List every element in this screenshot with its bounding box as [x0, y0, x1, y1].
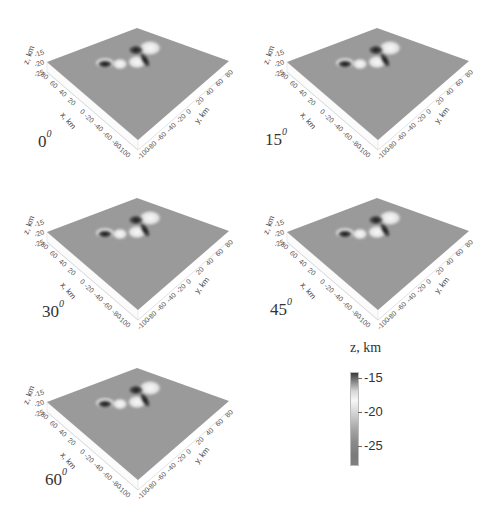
svg-text:-20: -20	[83, 112, 95, 124]
svg-text:-60: -60	[101, 470, 113, 482]
svg-text:40: 40	[204, 256, 215, 267]
svg-text:-60: -60	[395, 300, 407, 312]
svg-text:40: 40	[204, 86, 215, 97]
svg-text:-20: -20	[83, 452, 95, 464]
panel-0-deg: -15-20-25z, km806040200-20-40-60-80-100x…	[0, 0, 240, 170]
svg-text:y, km: y, km	[193, 275, 212, 295]
svg-text:y, km: y, km	[433, 105, 452, 125]
colorbar-gradient	[350, 372, 359, 466]
svg-text:-60: -60	[155, 130, 167, 142]
svg-text:-60: -60	[341, 130, 353, 142]
svg-text:60: 60	[454, 247, 465, 258]
svg-text:0: 0	[425, 107, 433, 115]
degree-superscript: 0	[62, 466, 67, 477]
svg-text:80: 80	[224, 238, 235, 249]
svg-text:0: 0	[185, 277, 193, 285]
panel-30-deg: -15-20-25z, km806040200-20-40-60-80-100x…	[0, 170, 240, 340]
svg-text:x, km: x, km	[298, 111, 317, 132]
svg-text:20: 20	[307, 266, 318, 276]
panel-60-deg: -15-20-25z, km806040200-20-40-60-80-100x…	[0, 340, 240, 510]
degree-superscript: 0	[282, 126, 287, 137]
angle-value: 30	[42, 302, 59, 321]
svg-text:40: 40	[444, 86, 455, 97]
svg-text:-20: -20	[33, 398, 45, 408]
svg-text:40: 40	[58, 258, 69, 268]
svg-text:-80: -80	[146, 309, 158, 321]
svg-text:0: 0	[185, 447, 193, 455]
svg-text:-100: -100	[357, 144, 372, 158]
colorbar-title: z, km	[350, 340, 381, 356]
svg-text:-20: -20	[33, 228, 45, 238]
angle-value: 15	[265, 130, 282, 149]
svg-text:-20: -20	[175, 282, 187, 294]
svg-text:-20: -20	[273, 58, 285, 68]
svg-text:20: 20	[194, 96, 205, 107]
svg-text:20: 20	[194, 436, 205, 447]
surface-plot: -15-20-25z, km806040200-20-40-60-80-100x…	[0, 170, 240, 340]
colorbar-tick: -20	[359, 404, 383, 419]
svg-text:40: 40	[298, 258, 309, 268]
svg-text:-40: -40	[405, 121, 417, 133]
svg-text:80: 80	[224, 408, 235, 419]
svg-text:-60: -60	[155, 300, 167, 312]
svg-text:-20: -20	[323, 282, 335, 294]
svg-text:-20: -20	[415, 282, 427, 294]
svg-text:-80: -80	[146, 479, 158, 491]
svg-text:-40: -40	[92, 121, 104, 133]
svg-text:-100: -100	[117, 144, 132, 158]
svg-text:40: 40	[58, 88, 69, 98]
svg-text:-80: -80	[386, 139, 398, 151]
svg-text:-40: -40	[165, 121, 177, 133]
svg-text:0: 0	[425, 277, 433, 285]
svg-text:-40: -40	[165, 291, 177, 303]
angle-label: 150	[265, 129, 287, 150]
svg-text:-60: -60	[395, 130, 407, 142]
svg-text:20: 20	[67, 96, 78, 106]
svg-text:-60: -60	[155, 470, 167, 482]
svg-text:y, km: y, km	[193, 105, 212, 125]
svg-text:-80: -80	[146, 139, 158, 151]
svg-text:x, km: x, km	[298, 281, 317, 302]
svg-text:-100: -100	[357, 314, 372, 328]
svg-text:80: 80	[464, 68, 475, 79]
svg-text:60: 60	[214, 247, 225, 258]
svg-text:y, km: y, km	[433, 275, 452, 295]
svg-text:x, km: x, km	[58, 111, 77, 132]
svg-text:-60: -60	[341, 300, 353, 312]
svg-text:20: 20	[67, 436, 78, 446]
svg-text:-40: -40	[332, 121, 344, 133]
svg-text:-40: -40	[92, 461, 104, 473]
svg-text:-20: -20	[273, 228, 285, 238]
svg-text:-40: -40	[92, 291, 104, 303]
surface-plot: -15-20-25z, km806040200-20-40-60-80-100x…	[0, 0, 240, 170]
colorbar-tick: -15	[359, 370, 383, 385]
svg-text:-80: -80	[386, 309, 398, 321]
svg-text:y, km: y, km	[193, 445, 212, 465]
angle-label: 00	[38, 131, 52, 152]
degree-superscript: 0	[287, 296, 292, 307]
svg-text:20: 20	[307, 96, 318, 106]
svg-text:80: 80	[224, 68, 235, 79]
svg-text:60: 60	[454, 77, 465, 88]
svg-text:20: 20	[434, 96, 445, 107]
svg-text:-20: -20	[83, 282, 95, 294]
svg-text:20: 20	[434, 266, 445, 277]
svg-text:-100: -100	[117, 314, 132, 328]
colorbar-tick: -25	[359, 438, 383, 453]
angle-label: 300	[42, 301, 64, 322]
angle-label: 450	[270, 299, 292, 320]
svg-text:80: 80	[464, 238, 475, 249]
svg-text:-20: -20	[323, 112, 335, 124]
svg-text:-100: -100	[117, 484, 132, 498]
svg-text:20: 20	[67, 266, 78, 276]
svg-text:40: 40	[298, 88, 309, 98]
svg-text:-60: -60	[101, 300, 113, 312]
angle-value: 45	[270, 300, 287, 319]
svg-text:-20: -20	[175, 452, 187, 464]
svg-text:-40: -40	[165, 461, 177, 473]
degree-superscript: 0	[59, 298, 64, 309]
svg-text:-20: -20	[415, 112, 427, 124]
svg-text:60: 60	[214, 417, 225, 428]
surface-plot: -15-20-25z, km806040200-20-40-60-80-100x…	[0, 340, 240, 510]
angle-value: 60	[45, 470, 62, 489]
